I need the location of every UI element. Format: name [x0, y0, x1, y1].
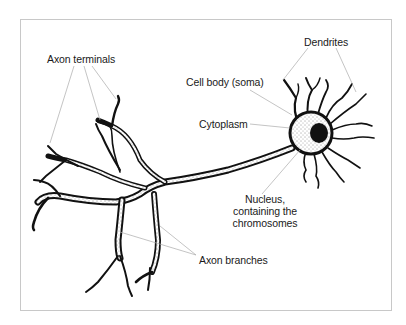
label-nucleus-line3: chromosomes: [225, 217, 305, 229]
nucleus: [310, 123, 328, 143]
label-dendrites: Dendrites: [304, 36, 348, 48]
label-nucleus-line2: containing the: [225, 205, 305, 217]
label-nucleus: Nucleus, containing the chromosomes: [225, 193, 305, 229]
label-axon-branches: Axon branches: [199, 254, 268, 266]
label-cell-body: Cell body (soma): [186, 76, 264, 88]
neuron-illustration: [0, 0, 406, 325]
label-cytoplasm: Cytoplasm: [199, 118, 248, 130]
cell-body: [290, 112, 332, 154]
label-axon-terminals: Axon terminals: [47, 53, 115, 65]
label-nucleus-line1: Nucleus,: [225, 193, 305, 205]
